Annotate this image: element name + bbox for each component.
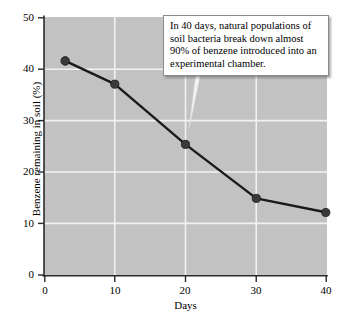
xtick-label-10: 10 xyxy=(102,285,128,296)
annotation-text: In 40 days, natural populations of soil … xyxy=(170,20,317,69)
xtick-label-0: 0 xyxy=(32,285,58,296)
data-point-day-10 xyxy=(111,80,119,88)
data-point-day-3 xyxy=(61,57,70,66)
ytick-label-0: 0 xyxy=(10,269,34,280)
xtick-label-40: 40 xyxy=(313,285,339,296)
xtick-label-20: 20 xyxy=(172,285,198,296)
benzene-degradation-chart: 50 40 30 20 10 0 0 10 20 30 40 Days Benz… xyxy=(0,0,342,322)
x-axis-title: Days xyxy=(44,299,327,311)
y-axis-title: Benzene remaining in soil (%) xyxy=(30,34,42,264)
data-point-day-20 xyxy=(181,140,189,148)
annotation-callout: In 40 days, natural populations of soil … xyxy=(163,15,329,76)
ytick-label-50: 50 xyxy=(10,12,34,23)
data-point-day-30 xyxy=(252,194,260,202)
x-axis-ticks xyxy=(45,276,326,282)
data-point-day-40 xyxy=(322,208,330,216)
xtick-label-30: 30 xyxy=(243,285,269,296)
